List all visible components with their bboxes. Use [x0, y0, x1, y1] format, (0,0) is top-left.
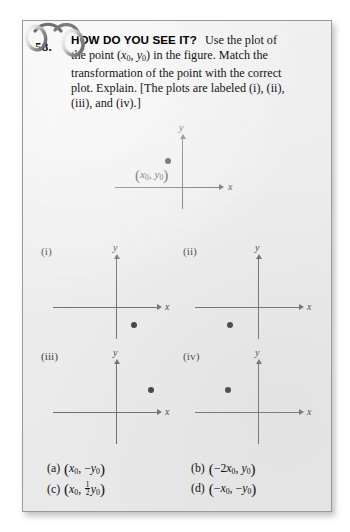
subplot-iii-point	[148, 387, 154, 393]
subplot-iii-x-label: x	[165, 406, 169, 417]
answer-choice-a: (a)(x0, −y0)	[47, 461, 105, 478]
answer-c-tag: (c)	[47, 482, 60, 496]
subplot-iv-y-arrow	[256, 359, 262, 364]
answer-d-tag: (d)	[191, 481, 205, 495]
answer-c-frac-denominator: 2	[85, 489, 91, 496]
answer-a-tag: (a)	[47, 461, 60, 475]
statement-line-1: Use the plot of	[205, 33, 277, 47]
subplot-iii-x-axis	[53, 412, 157, 413]
subplot-iv-x-axis	[195, 412, 299, 413]
answer-b-tag: (b)	[191, 461, 205, 475]
main-plot-x-arrow	[219, 184, 224, 190]
answer-choice-b: (b)(−2x0, y0)	[191, 461, 256, 478]
subplot-i-point	[131, 322, 137, 328]
subplot-iv-label: (iv)	[183, 350, 199, 362]
problem-statement: HOW DO YOU SEE IT?Use the plot of the po…	[71, 33, 319, 110]
subplot-iv-y-axis	[258, 364, 259, 444]
subplot-iii: (iii) x y	[41, 348, 177, 444]
subplot-iii-x-arrow	[157, 409, 162, 415]
main-plot-point	[165, 158, 171, 164]
subplot-i-y-label: y	[113, 242, 117, 253]
answer-a-x-sub: 0	[74, 467, 78, 476]
subplot-iv-point	[225, 387, 231, 393]
answer-d-x-sub: 0	[226, 487, 230, 496]
subplot-ii-point	[227, 322, 233, 328]
subplot-i-y-arrow	[114, 254, 120, 259]
answer-choices: (a)(x0, −y0) (b)(−2x0, y0) (c)(x0, 12y0)…	[23, 461, 331, 501]
answer-a-y-sign: −	[84, 461, 91, 475]
subplot-i-y-axis	[116, 259, 117, 339]
subplot-ii: (ii) x y	[183, 243, 319, 339]
subplot-ii-y-arrow	[256, 254, 262, 259]
main-plot-x-label: x	[228, 181, 232, 192]
statement-line-2-a: the point (	[71, 48, 121, 62]
subplot-iii-label: (iii)	[41, 350, 58, 362]
subplot-i: (i) x y	[41, 243, 177, 339]
subplot-iii-y-axis	[116, 364, 117, 444]
statement-line-3: transformation of the point with the cor…	[71, 66, 282, 80]
subplot-i-label: (i)	[41, 245, 52, 257]
subplot-iv: (iv) x y	[183, 348, 319, 444]
main-plot: x y (x0, y0)	[115, 125, 245, 209]
how-do-you-see-it-callout: HOW DO YOU SEE IT?	[71, 33, 197, 46]
answer-choice-d: (d)(−x0, −y0)	[191, 481, 256, 498]
main-plot-y-axis	[182, 139, 183, 209]
statement-line-5: (iii), and (iv).]	[71, 96, 141, 110]
statement-line-2-b: ) in the figure. Match the	[146, 48, 268, 62]
answer-c-fraction: 12	[85, 481, 91, 497]
subplot-ii-y-label: y	[255, 242, 259, 253]
textbook-page-card: 58. HOW DO YOU SEE IT?Use the plot of th…	[22, 20, 332, 512]
subplot-iv-x-arrow	[299, 409, 304, 415]
answer-row-2: (c)(x0, 12y0) (d)(−x0, −y0)	[23, 481, 331, 501]
answer-b-x-sub: 0	[232, 467, 236, 476]
subplot-ii-x-arrow	[299, 304, 304, 310]
problem-number: 58.	[35, 39, 52, 55]
subplot-i-x-arrow	[157, 304, 162, 310]
subplot-ii-label: (ii)	[183, 245, 197, 257]
subplot-ii-y-axis	[258, 259, 259, 339]
subplot-i-x-axis	[53, 307, 157, 308]
statement-line-4: plot. Explain. [The plots are labeled (i…	[71, 81, 285, 95]
subplot-iv-x-label: x	[307, 406, 311, 417]
subplot-iii-y-arrow	[114, 359, 120, 364]
subplot-iii-y-label: y	[113, 347, 117, 358]
subplot-iv-y-label: y	[255, 347, 259, 358]
answer-row-1: (a)(x0, −y0) (b)(−2x0, y0)	[23, 461, 331, 481]
subplot-ii-x-axis	[195, 307, 299, 308]
subplot-ii-x-label: x	[307, 301, 311, 312]
main-plot-y-arrow	[180, 134, 186, 139]
subplot-i-x-label: x	[165, 301, 169, 312]
main-plot-x-axis	[115, 187, 219, 188]
main-plot-point-label: (x0, y0)	[135, 167, 168, 184]
main-label-close: )	[163, 167, 168, 183]
answer-choice-c: (c)(x0, 12y0)	[47, 481, 105, 498]
answer-c-x-sub: 0	[74, 488, 78, 497]
main-plot-y-label: y	[179, 122, 183, 133]
